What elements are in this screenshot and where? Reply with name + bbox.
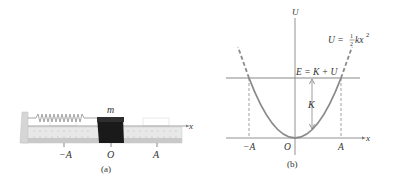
curve-label: U = 1 2 kx 2: [328, 31, 369, 47]
svg-text:1: 1: [350, 33, 353, 39]
mass-block-top: [97, 117, 124, 122]
tick-label-origin: O: [107, 149, 114, 160]
panel-a: m x −A O A (a): [20, 104, 193, 174]
svg-text:kx: kx: [355, 35, 364, 45]
tick-label-pos-a: A: [152, 149, 160, 160]
energy-label: E = K + U: [295, 67, 338, 77]
caption-a: (a): [101, 164, 111, 174]
wall-stop: [20, 112, 28, 143]
tick-label-pos-b: A: [337, 142, 344, 152]
figure-canvas: m x −A O A (a) U x K E = K + U: [0, 0, 400, 185]
tick-label-neg-b: −A: [243, 142, 255, 152]
u-axis-label: U: [292, 7, 299, 17]
ghost-position-right: [143, 118, 169, 126]
x-axis-label-b: x: [365, 133, 370, 143]
x-axis-label-a: x: [188, 121, 193, 131]
potential-curve-extension-left: [238, 47, 249, 78]
svg-text:2: 2: [366, 31, 369, 38]
kinetic-label: K: [307, 99, 316, 110]
panel-b: U x K E = K + U U = 1 2 kx 2 −A: [226, 7, 370, 169]
potential-curve-extension-right: [341, 47, 352, 78]
tick-label-origin-b: O: [284, 142, 291, 152]
svg-text:U =: U =: [328, 35, 344, 45]
tick-label-neg-a: −A: [59, 149, 73, 160]
caption-b: (b): [287, 159, 298, 169]
svg-text:2: 2: [350, 41, 353, 47]
mass-label: m: [107, 104, 114, 115]
